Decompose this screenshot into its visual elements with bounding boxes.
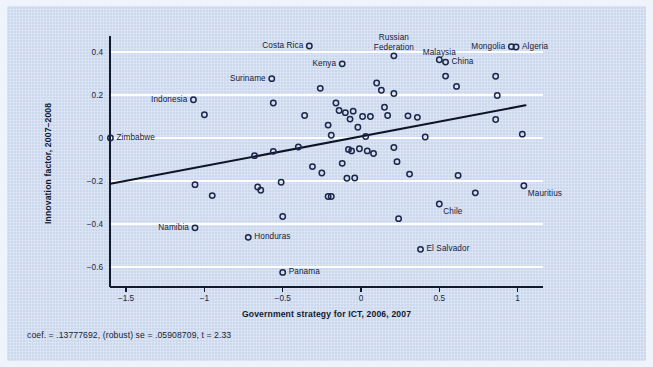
data-point (350, 108, 355, 113)
data-point (405, 113, 410, 118)
data-point (202, 112, 207, 117)
data-point (280, 270, 285, 275)
x-tick-label: 0 (359, 294, 364, 303)
data-point (493, 117, 498, 122)
data-point (415, 115, 420, 120)
y-tick-label: 0.2 (92, 91, 103, 100)
point-label-kenya: Kenya (312, 59, 336, 69)
point-label-indonesia: Indonesia (151, 95, 187, 105)
data-point (391, 145, 396, 150)
data-point (191, 97, 196, 102)
data-point (520, 131, 525, 136)
point-label-chile: Chile (443, 207, 462, 217)
data-point (352, 175, 357, 180)
y-tick-label: −0.4 (87, 220, 103, 229)
point-label-costa-rica: Costa Rica (262, 41, 303, 51)
data-point (336, 108, 341, 113)
y-tick-label: −0.2 (87, 177, 103, 186)
data-point (325, 122, 330, 127)
point-label-honduras: Honduras (254, 232, 290, 242)
data-point (340, 61, 345, 66)
data-point (455, 173, 460, 178)
data-point (418, 247, 423, 252)
y-tick-label: 0 (98, 134, 103, 143)
data-point (246, 235, 251, 240)
axis-lines-group (110, 36, 543, 287)
data-point (394, 159, 399, 164)
point-label-namibia: Namibia (158, 223, 189, 233)
data-point (357, 146, 362, 151)
point-label-zimbabwe: Zimbabwe (116, 133, 155, 143)
data-point (407, 171, 412, 176)
x-tick-label: −1 (200, 294, 209, 303)
data-point (310, 164, 315, 169)
data-point-markers-group (108, 43, 527, 275)
point-label-el-salvador: El Salvador (427, 244, 470, 254)
x-tick-label: 1 (515, 294, 520, 303)
point-label-suriname: Suriname (230, 74, 266, 84)
gridlines-group (110, 52, 543, 267)
data-point (396, 216, 401, 221)
point-label-algeria: Algeria (522, 42, 548, 52)
data-point (360, 114, 365, 119)
data-point (280, 214, 285, 219)
data-point (210, 193, 215, 198)
y-axis-title: Innovation factor, 2007–2008 (43, 102, 53, 223)
data-point (307, 43, 312, 48)
data-point (347, 116, 352, 121)
x-axis-title: Government strategy for ICT, 2006, 2007 (242, 309, 411, 319)
data-point (269, 76, 274, 81)
data-point (391, 53, 396, 58)
data-point (437, 201, 442, 206)
data-point (371, 151, 376, 156)
data-point (271, 100, 276, 105)
point-label-panama: Panama (289, 267, 320, 277)
data-point (192, 182, 197, 187)
data-point (329, 133, 334, 138)
data-point (473, 190, 478, 195)
chart-plate: −1.5−1−0.500.510.40.20−0.2−0.4−0.6 Zimba… (7, 6, 646, 361)
data-point (379, 88, 384, 93)
data-point (521, 183, 526, 188)
data-point (319, 170, 324, 175)
x-tick-label: −1.5 (118, 294, 134, 303)
data-point (385, 113, 390, 118)
data-point (302, 113, 307, 118)
data-point (368, 114, 373, 119)
y-tick-label: 0.4 (92, 48, 103, 57)
x-tick-label: −0.5 (275, 294, 291, 303)
y-tick-label: −0.6 (87, 263, 103, 272)
regression-caption: coef. = .13777692, (robust) se = .059087… (27, 330, 231, 340)
data-point (454, 84, 459, 89)
data-point (374, 80, 379, 85)
x-tick-label: 0.5 (434, 294, 445, 303)
point-label-mongolia: Mongolia (471, 42, 505, 52)
data-point (382, 105, 387, 110)
data-point (318, 86, 323, 91)
data-point (443, 73, 448, 78)
data-point (423, 134, 428, 139)
data-point (333, 100, 338, 105)
regression-fit-line (110, 105, 525, 183)
data-point (344, 176, 349, 181)
data-point (340, 161, 345, 166)
point-label-china: China (452, 57, 474, 67)
fit-line-segment (110, 105, 525, 183)
point-label-russian-federation: RussianFederation (374, 33, 414, 54)
data-point (355, 125, 360, 130)
data-point (192, 225, 197, 230)
data-point (443, 59, 448, 64)
point-label-mauritius: Mauritius (528, 189, 562, 199)
data-point (365, 148, 370, 153)
figure-container: −1.5−1−0.500.510.40.20−0.2−0.4−0.6 Zimba… (0, 0, 653, 367)
data-point (343, 110, 348, 115)
data-point (493, 74, 498, 79)
